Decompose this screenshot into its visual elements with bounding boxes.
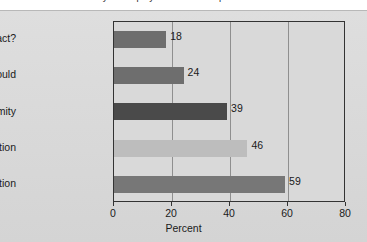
figure-container: FIGURE 1 Reasons why an employee would n… (0, 0, 367, 242)
bar-row: 24 (114, 58, 346, 94)
figure-caption-text: Reasons why an employee would not report (50, 0, 235, 2)
tick-mark-40 (229, 202, 230, 206)
bar-0 (114, 31, 166, 48)
tick-mark-20 (171, 202, 172, 206)
bar-row: 18 (114, 22, 346, 58)
bar-1 (114, 67, 184, 84)
tick-label-0: 0 (98, 207, 128, 219)
bar-value-label: 39 (231, 102, 243, 114)
category-label-4: No Corrective Action (0, 177, 16, 189)
category-label-1: Someone Else Would (0, 68, 16, 80)
bar-row: 39 (114, 94, 346, 130)
bar-value-label: 59 (289, 175, 301, 187)
plot-area: 1824394659 (113, 21, 345, 202)
tick-mark-80 (345, 202, 346, 206)
tick-label-20: 20 (156, 207, 186, 219)
category-label-0: Who to Contact? (0, 32, 16, 44)
tick-label-60: 60 (272, 207, 302, 219)
figure-caption: FIGURE 1 Reasons why an employee would n… (4, 0, 235, 2)
x-axis-title: Percent (0, 222, 367, 234)
tick-mark-60 (287, 202, 288, 206)
tick-mark-0 (113, 202, 114, 206)
bar-value-label: 18 (170, 30, 182, 42)
bar-row: 59 (114, 167, 346, 203)
chart-panel: Who to Contact?Someone Else WouldFear No… (0, 11, 367, 242)
tick-label-40: 40 (214, 207, 244, 219)
category-label-2: Fear No Anonymity (0, 105, 16, 117)
bar-4 (114, 176, 285, 193)
figure-caption-label: FIGURE 1 (4, 0, 48, 2)
bar-3 (114, 140, 247, 157)
bar-value-label: 24 (188, 66, 200, 78)
bar-value-label: 46 (251, 139, 263, 151)
tick-label-80: 80 (330, 207, 360, 219)
bar-2 (114, 103, 227, 120)
figure-caption-strip: FIGURE 1 Reasons why an employee would n… (0, 0, 367, 11)
bar-row: 46 (114, 131, 346, 167)
category-label-3: Fear Retaliation (0, 141, 16, 153)
